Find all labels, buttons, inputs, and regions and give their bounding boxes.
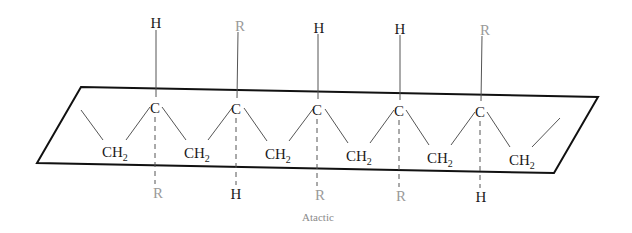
down-substituents: R H R R H	[153, 185, 487, 205]
methylene-5: CH2	[427, 150, 453, 169]
down-substituent-5: H	[476, 189, 487, 205]
up-substituent-3: H	[314, 20, 325, 36]
carbon-2: C	[231, 101, 241, 117]
up-substituent-1: H	[151, 15, 162, 31]
backbone-carbons: C C C C C	[150, 100, 485, 120]
down-substituent-3: R	[315, 187, 325, 203]
diagram-caption: Atactic	[302, 211, 334, 223]
methylene-6: CH2	[509, 152, 535, 171]
down-substituent-1: R	[153, 185, 163, 201]
diagram-canvas: C C C C C H R H H R R H R R H CH2 CH2 CH…	[0, 0, 632, 233]
up-substituent-2: R	[235, 18, 245, 34]
up-substituent-4: H	[395, 21, 406, 37]
carbon-3: C	[312, 102, 322, 118]
methylene-2: CH2	[184, 145, 210, 164]
carbon-4: C	[394, 103, 404, 119]
methylene-groups: CH2 CH2 CH2 CH2 CH2 CH2	[102, 144, 535, 171]
carbon-5: C	[475, 104, 485, 120]
up-substituent-5: R	[480, 22, 490, 38]
down-substituent-2: H	[231, 186, 242, 202]
methylene-1: CH2	[102, 144, 128, 163]
carbon-1: C	[150, 100, 160, 116]
down-substituent-4: R	[396, 188, 406, 204]
atactic-polymer-diagram: C C C C C H R H H R R H R R H CH2 CH2 CH…	[0, 0, 632, 233]
methylene-4: CH2	[346, 148, 372, 167]
up-substituents: H R H H R	[151, 15, 490, 38]
methylene-3: CH2	[265, 146, 291, 165]
